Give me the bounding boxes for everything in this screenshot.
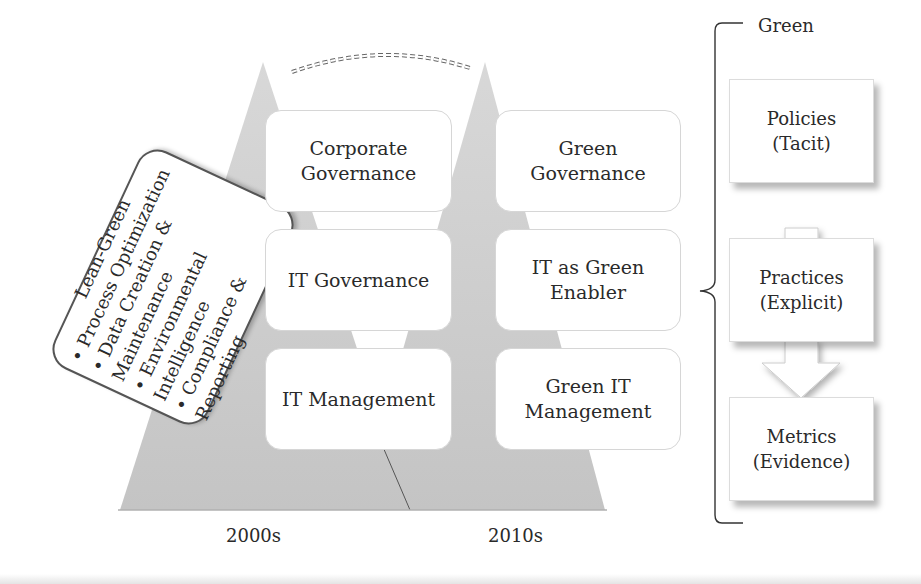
- box-green-it-management: Green IT Management: [495, 348, 681, 450]
- step-policies: Policies (Tacit): [729, 79, 874, 183]
- box-line: IT Management: [282, 387, 435, 412]
- box-line: Governance: [530, 161, 645, 186]
- box-line: Management: [525, 399, 652, 424]
- step-metrics: Metrics (Evidence): [729, 397, 874, 501]
- box-line: Green IT: [545, 374, 630, 399]
- box-line: IT as Green: [532, 255, 644, 280]
- box-line: Governance: [301, 161, 416, 186]
- box-line: Green: [559, 136, 618, 161]
- era-label-2010s: 2010s: [488, 525, 543, 546]
- step-title: Metrics: [767, 424, 837, 449]
- green-bracket-label: Green: [758, 15, 814, 36]
- box-it-governance: IT Governance: [265, 229, 452, 331]
- bottom-edge: [0, 574, 921, 584]
- arrow-down-icon: [762, 340, 840, 398]
- box-it-as-green-enabler: IT as Green Enabler: [495, 229, 681, 331]
- step-subtitle: (Tacit): [772, 131, 830, 156]
- box-corporate-governance: Corporate Governance: [265, 110, 452, 212]
- box-green-governance: Green Governance: [495, 110, 681, 212]
- box-line: Enabler: [550, 280, 626, 305]
- box-it-management: IT Management: [265, 348, 452, 450]
- box-line: Corporate: [310, 136, 408, 161]
- step-title: Practices: [759, 265, 844, 290]
- step-subtitle: (Explicit): [760, 290, 843, 315]
- step-subtitle: (Evidence): [753, 449, 851, 474]
- era-label-2000s: 2000s: [226, 525, 281, 546]
- step-title: Policies: [767, 106, 836, 131]
- box-line: IT Governance: [288, 268, 430, 293]
- step-practices: Practices (Explicit): [729, 238, 874, 342]
- lean-green-panel: Lean-Green Process Optimization Data Cre…: [88, 140, 258, 440]
